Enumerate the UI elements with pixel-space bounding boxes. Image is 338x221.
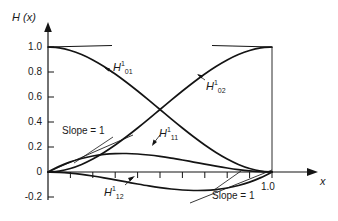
curves [48,47,272,191]
curve-label-H01-sub: 01 [125,68,133,75]
y-tick-marks [48,47,54,197]
y-tick-label-0.4: 0.4 [8,117,42,127]
hermite-basis-chart: H (x) x 1.0 0.8 0.6 0.4 0.2 0 -0.2 1.0 H… [0,0,338,221]
chart-plot-area [0,0,338,221]
curve-label-H02-sup: 1 [214,79,218,86]
curve-label-H02-base: H [206,80,214,92]
curve-label-H01-sup: 1 [121,60,125,67]
x-axis-arrow [307,168,318,176]
curve-label-H11: H111 [159,126,178,141]
curve-label-H12-base: H [104,186,112,198]
curve-label-H02: H102 [206,79,226,94]
curve-label-H12: H112 [104,185,124,200]
tangent-top-left [48,46,112,48]
y-axis [44,22,52,200]
y-tick-label-0.2: 0.2 [8,142,42,152]
tangent-top-right [212,46,272,48]
curve-label-H12-sup: 1 [112,185,116,192]
curve-label-H01: H101 [113,60,133,75]
y-tick-label-0.6: 0.6 [8,92,42,102]
y-tick-label--0.2: -0.2 [4,192,42,202]
curve-label-H02-sub: 02 [218,87,226,94]
y-axis-title: H (x) [12,12,36,23]
x-tick-label-1.0: 1.0 [261,182,275,192]
x-axis-title: x [320,176,326,187]
annotation-slope-1-right: Slope = 1 [212,191,255,201]
annotation-slope-1-left: Slope = 1 [62,126,105,136]
curve-label-H11-sub: 11 [171,134,178,141]
curve-label-H12-sub: 12 [116,193,124,200]
y-tick-label-0.8: 0.8 [8,67,42,77]
y-axis-arrow [44,22,52,32]
y-tick-label-0: 0 [8,167,42,177]
curve-label-H11-base: H [159,127,167,139]
y-tick-label-1.0: 1.0 [8,42,42,52]
curve-H02 [48,47,272,172]
curve-H11 [48,153,272,172]
curve-label-H11-sup: 1 [167,126,171,133]
curve-label-H01-base: H [113,61,121,73]
